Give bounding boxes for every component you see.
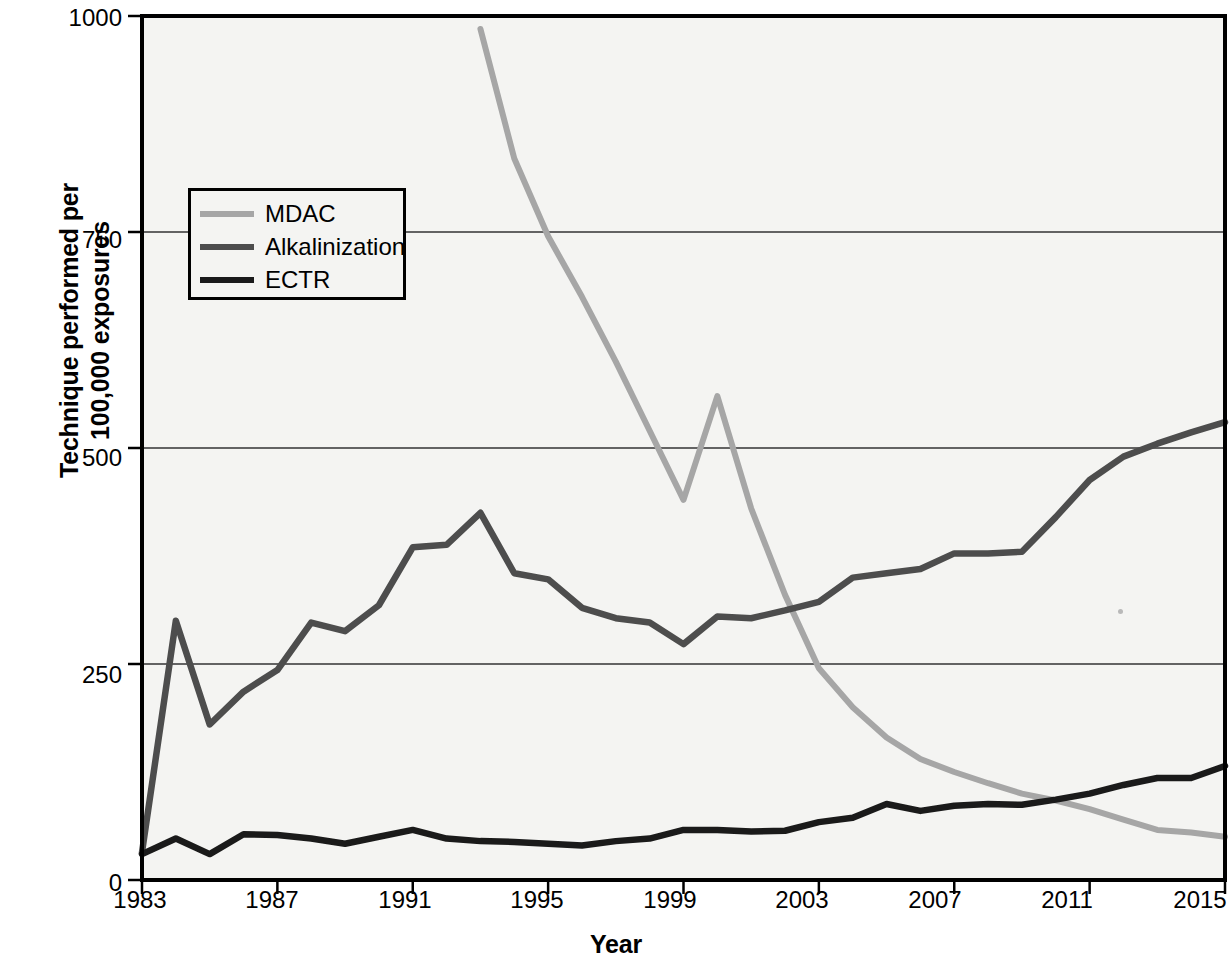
chart-legend: MDAC Alkalinization ECTR — [188, 188, 406, 300]
legend-swatch-alkalinization — [200, 244, 254, 250]
legend-swatch-ectr — [200, 277, 254, 283]
chart-figure: Technique performed per 100,000 exposure… — [0, 0, 1232, 960]
legend-item-mdac: MDAC — [200, 199, 336, 229]
plot-area — [0, 0, 1232, 960]
image-speck — [1118, 609, 1123, 614]
legend-item-ectr: ECTR — [200, 265, 330, 295]
legend-label-ectr: ECTR — [265, 268, 330, 292]
legend-swatch-mdac — [200, 211, 254, 217]
legend-item-alkalinization: Alkalinization — [200, 232, 405, 262]
legend-label-mdac: MDAC — [265, 202, 336, 226]
legend-label-alkalinization: Alkalinization — [265, 235, 405, 259]
